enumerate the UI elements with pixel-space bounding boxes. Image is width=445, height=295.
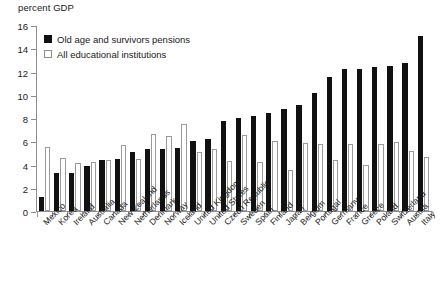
y-axis-tick — [31, 49, 36, 50]
bar-pension — [342, 69, 347, 211]
y-axis-tick-label: 8 — [23, 114, 28, 125]
y-axis-tick-label: 12 — [17, 67, 28, 78]
y-axis-tick-label: 0 — [23, 207, 28, 218]
bar-education — [303, 143, 308, 211]
bar-group — [312, 26, 324, 211]
bar-education — [394, 142, 399, 211]
bar-group — [387, 26, 399, 211]
y-axis-tick — [31, 73, 36, 74]
bar-group — [205, 26, 217, 211]
y-axis-tick-label: 16 — [17, 21, 28, 32]
bar-group — [190, 26, 202, 211]
bar-pension — [418, 36, 423, 211]
y-axis-tick — [31, 96, 36, 97]
bar-education — [75, 163, 80, 211]
bar-education — [272, 141, 277, 211]
filled-square-icon — [44, 35, 52, 43]
bar-group — [281, 26, 293, 211]
y-axis-tick-label: 10 — [17, 90, 28, 101]
y-axis-tick — [31, 119, 36, 120]
bar-pension — [387, 66, 392, 211]
bar-group — [402, 26, 414, 211]
y-axis-tick — [31, 212, 36, 213]
gdp-spending-bar-chart: percent GDP 0246810121416 MexicoKoreaIre… — [0, 0, 445, 295]
y-axis-tick — [31, 189, 36, 190]
bar-pension — [402, 63, 407, 211]
bar-education — [181, 124, 186, 211]
hollow-square-icon — [44, 50, 52, 58]
legend-item-label: Old age and survivors pensions — [57, 34, 190, 45]
bar-group — [418, 26, 430, 211]
bar-pension — [372, 67, 377, 211]
legend-item-label: All educational institutions — [57, 49, 166, 60]
legend-item-pensions: Old age and survivors pensions — [44, 32, 190, 46]
bar-group — [342, 26, 354, 211]
y-axis-unit-title: percent GDP — [18, 2, 74, 13]
bar-pension — [357, 69, 362, 211]
bar-group — [357, 26, 369, 211]
bar-pension — [39, 197, 44, 211]
y-axis-tick — [31, 26, 36, 27]
bar-pension — [296, 105, 301, 211]
y-axis-tick-label: 6 — [23, 137, 28, 148]
bar-education — [45, 147, 50, 211]
y-axis-tick — [31, 142, 36, 143]
x-axis-tick — [37, 212, 38, 217]
bar-pension — [281, 109, 286, 211]
y-axis-tick — [31, 166, 36, 167]
bar-group — [327, 26, 339, 211]
legend-item-education: All educational institutions — [44, 47, 190, 61]
bar-pension — [312, 93, 317, 211]
y-axis-tick-label: 4 — [23, 160, 28, 171]
y-axis-tick-label: 14 — [17, 44, 28, 55]
bar-group — [372, 26, 384, 211]
bar-pension — [266, 113, 271, 211]
bar-pension — [327, 77, 332, 211]
y-axis-tick-label: 2 — [23, 183, 28, 194]
bar-group — [296, 26, 308, 211]
chart-legend: Old age and survivors pensions All educa… — [44, 32, 190, 62]
